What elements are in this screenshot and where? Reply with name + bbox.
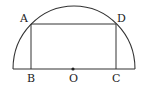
label-b: B <box>27 72 35 85</box>
label-a: A <box>19 12 29 25</box>
label-o: O <box>69 72 78 85</box>
label-c: C <box>112 72 120 85</box>
geometry-diagram: A D B O C <box>0 0 144 89</box>
label-d: D <box>117 12 126 25</box>
center-point-o <box>71 67 74 70</box>
